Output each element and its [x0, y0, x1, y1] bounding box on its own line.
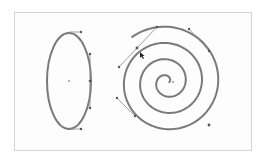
- spiral-path[interactable]: [124, 27, 218, 129]
- spiral-control-point-1b[interactable]: [118, 66, 120, 68]
- ellipse-top-control-point[interactable]: [80, 31, 82, 33]
- ellipse-right-control-point-top[interactable]: [89, 53, 91, 55]
- ellipse-center-point: [68, 80, 70, 82]
- ellipse-bottom-control-point[interactable]: [80, 128, 82, 130]
- spiral-anchor-point-1[interactable]: [136, 47, 139, 50]
- spiral-control-point-1a[interactable]: [156, 26, 158, 28]
- direct-selection-cursor-icon: [140, 52, 145, 59]
- ellipse-right-anchor-point[interactable]: [89, 80, 92, 83]
- spiral-center-point: [172, 81, 174, 83]
- spiral-end-point[interactable]: [208, 124, 211, 127]
- vector-canvas[interactable]: [0, 0, 262, 156]
- spiral-control-point-3[interactable]: [116, 97, 118, 99]
- spiral-anchor-point-3[interactable]: [134, 115, 136, 117]
- spiral-shape[interactable]: [116, 26, 218, 129]
- spiral-anchor-point-2[interactable]: [208, 50, 210, 52]
- ellipse-right-control-point-bottom[interactable]: [89, 107, 91, 109]
- ellipse-shape[interactable]: [47, 31, 91, 130]
- spiral-handle-line-2: [189, 29, 209, 51]
- spiral-control-point-2[interactable]: [188, 28, 190, 30]
